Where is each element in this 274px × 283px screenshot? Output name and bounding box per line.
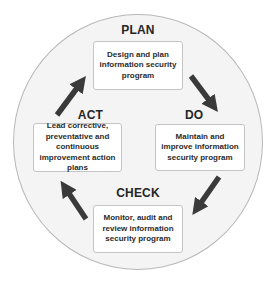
act-box: Lead corrective, preventative and contin… [33,123,122,172]
plan-label: PLAN [93,23,183,37]
do-label: DO [155,108,235,122]
act-label: ACT [33,108,122,122]
check-label: CHECK [93,186,183,200]
check-box: Monitor, audit and review information se… [93,205,183,253]
act-description: Lead corrective, preventative and contin… [37,121,118,174]
do-box: Maintain and improve information securit… [155,124,245,171]
check-description: Monitor, audit and review information se… [97,213,179,245]
plan-description: Design and plan information security pro… [97,50,179,82]
plan-box: Design and plan information security pro… [93,41,183,90]
do-description: Maintain and improve information securit… [159,132,241,164]
